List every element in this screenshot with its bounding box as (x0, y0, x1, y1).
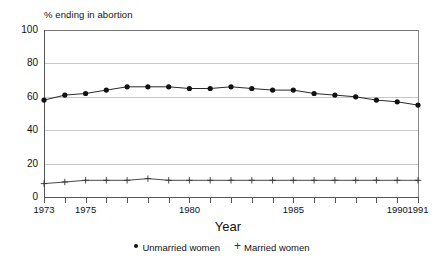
x-axis-tick (356, 198, 357, 203)
gridline (44, 130, 418, 131)
data-point-marker (145, 175, 151, 181)
x-axis-tick-label: 1985 (283, 204, 304, 215)
x-axis-tick (314, 198, 315, 203)
y-axis-tick-label: 80 (4, 57, 38, 68)
y-axis-tick-label: 60 (4, 91, 38, 102)
y-axis-tick-label: 40 (4, 124, 38, 135)
gridline (44, 97, 418, 98)
x-axis-tick-label: 1991 (408, 204, 429, 215)
data-point-marker (270, 88, 275, 93)
legend-label-married-women: Married women (244, 242, 309, 253)
series-line-1 (44, 87, 418, 105)
series-line-2 (44, 179, 418, 184)
data-point-marker (83, 91, 88, 96)
data-point-marker (373, 177, 379, 183)
data-point-marker (145, 84, 150, 89)
gridline (44, 63, 418, 64)
chart-legend: Unmarried women+Married women (0, 241, 444, 253)
data-point-marker (208, 86, 213, 91)
gridline (44, 164, 418, 165)
chart-figure: % ending in abortion 020406080100 197319… (0, 0, 444, 264)
legend-label-unmarried-women: Unmarried women (142, 242, 220, 253)
x-axis-tick-label: 1980 (179, 204, 200, 215)
x-axis-tick (127, 198, 128, 203)
legend-dot-marker-icon (134, 244, 138, 248)
data-point-marker (125, 84, 130, 89)
data-point-marker (104, 88, 109, 93)
data-point-marker (124, 177, 130, 183)
data-point-marker (228, 84, 233, 89)
plot-frame-left (44, 30, 45, 198)
x-axis-tick (335, 198, 336, 203)
x-axis-tick (210, 198, 211, 203)
x-axis-tick (397, 198, 398, 203)
x-axis-tick (293, 198, 294, 203)
x-axis-tick (273, 198, 274, 203)
x-axis-tick (418, 198, 419, 203)
x-axis-tick (65, 198, 66, 203)
data-point-marker (187, 86, 192, 91)
x-axis-title-text: Year (215, 219, 241, 234)
x-axis-tick (148, 198, 149, 203)
data-point-marker (186, 177, 192, 183)
data-point-marker (249, 86, 254, 91)
x-axis-tick (231, 198, 232, 203)
data-point-marker (103, 177, 109, 183)
data-point-marker (291, 88, 296, 93)
y-axis-title: % ending in abortion (44, 9, 133, 20)
data-point-marker (394, 177, 400, 183)
data-point-marker (166, 84, 171, 89)
legend-plus-marker-icon: + (234, 242, 241, 251)
data-point-marker (312, 91, 317, 96)
data-point-marker (290, 177, 296, 183)
plot-frame-right (418, 30, 419, 198)
data-point-marker (207, 177, 213, 183)
plot-frame-top (44, 30, 418, 31)
data-point-marker (166, 177, 172, 183)
data-point-marker (395, 99, 400, 104)
data-point-marker (82, 177, 88, 183)
x-axis-tick (44, 198, 45, 203)
x-axis-tick-label: 1973 (34, 204, 55, 215)
data-point-marker (269, 177, 275, 183)
x-axis-tick (376, 198, 377, 203)
data-point-marker (311, 177, 317, 183)
data-point-marker (228, 177, 234, 183)
x-axis-tick-label: 1975 (75, 204, 96, 215)
data-point-marker (62, 179, 68, 185)
x-axis-tick (169, 198, 170, 203)
x-axis-title: Year (0, 219, 444, 234)
y-axis-tick-label: 0 (4, 191, 38, 202)
data-point-marker (332, 177, 338, 183)
x-axis-tick (86, 198, 87, 203)
legend-item-married-women: +Married women (234, 241, 309, 253)
x-axis-tick (106, 198, 107, 203)
data-point-marker (353, 177, 359, 183)
y-axis-tick-label: 20 (4, 158, 38, 169)
data-point-marker (249, 177, 255, 183)
x-axis-tick (252, 198, 253, 203)
y-axis-tick-label: 100 (4, 24, 38, 35)
legend-item-unmarried-women: Unmarried women (134, 241, 220, 253)
data-point-marker (374, 98, 379, 103)
x-axis-tick-label: 1990 (387, 204, 408, 215)
x-axis-tick (189, 198, 190, 203)
